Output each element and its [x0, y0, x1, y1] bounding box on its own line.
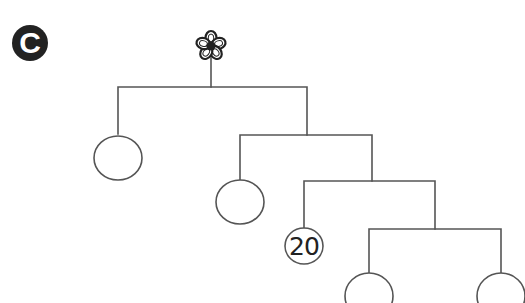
leaf-node-5 [477, 273, 525, 303]
leaf-node-3-label: 20 [289, 234, 319, 259]
branch-level-2 [240, 135, 372, 181]
branch-level-1 [118, 87, 307, 135]
leaf-node-4 [345, 273, 393, 303]
branch-level-3 [304, 181, 435, 229]
tree-diagram [0, 0, 525, 303]
branch-level-4 [369, 229, 501, 273]
leaf-node-1 [94, 136, 142, 180]
flower-icon [195, 31, 227, 61]
leaf-node-2 [216, 180, 264, 224]
